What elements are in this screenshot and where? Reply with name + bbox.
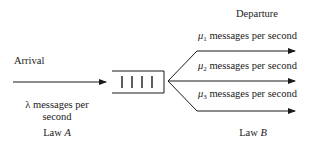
arrival-label: Arrival — [14, 55, 44, 67]
mu-subscript: 2 — [203, 65, 207, 73]
law-a-prefix: Law — [43, 127, 62, 138]
arrival-rate-text: messages per — [33, 99, 89, 110]
server-2-rate: μ2 messages per second — [198, 60, 297, 75]
law-b-var: B — [260, 127, 266, 138]
server-3-rate-text: messages per second — [209, 88, 296, 99]
departure-label: Departure — [236, 8, 278, 20]
law-a-var: A — [64, 127, 70, 138]
law-b-prefix: Law — [239, 127, 258, 138]
arrival-rate-line2: second — [42, 111, 71, 123]
server-1-rate-text: messages per second — [209, 30, 296, 41]
mu-subscript: 3 — [203, 93, 207, 101]
lambda-symbol: λ — [25, 99, 30, 110]
server-1-rate: μ1 messages per second — [198, 30, 297, 45]
server-2-rate-text: messages per second — [209, 60, 296, 71]
mu-subscript: 1 — [203, 35, 207, 43]
law-a-label: Law A — [43, 127, 71, 139]
law-b-label: Law B — [239, 127, 267, 139]
arrival-rate-line1: λ messages per — [25, 99, 88, 111]
server-3-rate: μ3 messages per second — [198, 88, 297, 103]
queue-buffer — [112, 71, 164, 93]
